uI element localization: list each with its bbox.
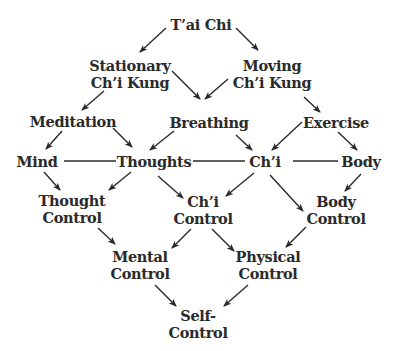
arrow-meditation-to-mind: [46, 131, 62, 149]
node-label: Ch’i Kung: [89, 74, 170, 91]
node-label: Mind: [16, 153, 57, 170]
node-thought-control: ThoughtControl: [39, 192, 106, 226]
node-label: Meditation: [30, 113, 116, 130]
node-chi-control: Ch’iControl: [173, 193, 232, 227]
node-label: Self-: [168, 307, 227, 324]
arrow-thoughts-to-thought-control: [109, 172, 131, 190]
node-body: Body: [341, 153, 380, 170]
node-label: Control: [39, 209, 106, 226]
arrow-exercise-to-chi: [272, 122, 302, 150]
arrow-chi-control-to-physical-control: [212, 229, 234, 251]
diagram-edges: [0, 0, 398, 351]
node-thoughts: Thoughts: [117, 153, 192, 170]
arrow-moving-chi-kung-to-exercise: [304, 97, 320, 112]
node-physical-control: PhysicalControl: [236, 248, 301, 282]
tai-chi-concept-diagram: T’ai ChiStationaryCh’i KungMovingCh’i Ku…: [0, 0, 398, 351]
arrow-exercise-to-body: [338, 132, 357, 150]
arrow-body-to-body-control: [345, 174, 361, 191]
arrow-tai-chi-to-stationary-chi-kung: [140, 28, 166, 52]
node-mental-control: MentalControl: [110, 248, 169, 282]
arrow-stationary-chi-kung-to-meditation: [82, 91, 104, 110]
arrow-breathing-to-chi: [236, 135, 252, 150]
arrow-meditation-to-thoughts: [113, 128, 132, 147]
node-label: T’ai Chi: [171, 16, 232, 33]
node-label: Body: [306, 193, 365, 210]
arrow-tai-chi-to-moving-chi-kung: [236, 28, 258, 50]
node-mind: Mind: [16, 153, 57, 170]
arrow-stationary-chi-kung-to-breathing: [172, 71, 200, 99]
arrow-moving-chi-kung-to-breathing: [205, 79, 228, 99]
node-label: Ch’i: [249, 153, 280, 170]
node-exercise: Exercise: [303, 114, 369, 131]
node-label: Control: [236, 265, 301, 282]
node-label: Control: [173, 210, 232, 227]
node-label: Control: [306, 210, 365, 227]
arrow-chi-to-body-control: [270, 175, 303, 211]
node-breathing: Breathing: [169, 114, 248, 131]
node-label: Stationary: [89, 57, 170, 74]
arrow-breathing-to-thoughts: [150, 131, 174, 150]
node-label: Ch’i Kung: [233, 74, 312, 91]
arrow-thought-control-to-mental-control: [98, 228, 115, 244]
node-label: Thought: [39, 192, 106, 209]
node-label: Exercise: [303, 114, 369, 131]
node-label: Body: [341, 153, 380, 170]
node-moving-chi-kung: MovingCh’i Kung: [233, 57, 312, 91]
node-label: Ch’i: [173, 193, 232, 210]
node-self-control: Self-Control: [168, 307, 227, 341]
node-body-control: BodyControl: [306, 193, 365, 227]
arrow-body-control-to-physical-control: [286, 227, 306, 247]
node-label: Breathing: [169, 114, 248, 131]
node-label: Thoughts: [117, 153, 192, 170]
arrow-chi-control-to-mental-control: [172, 229, 191, 248]
node-meditation: Meditation: [30, 113, 116, 130]
node-label: Control: [110, 265, 169, 282]
node-stationary-chi-kung: StationaryCh’i Kung: [89, 57, 170, 91]
arrow-mind-to-thought-control: [44, 172, 60, 190]
node-chi: Ch’i: [249, 153, 280, 170]
node-label: Control: [168, 324, 227, 341]
node-label: Moving: [233, 57, 312, 74]
node-tai-chi: T’ai Chi: [171, 16, 232, 33]
node-label: Mental: [110, 248, 169, 265]
arrow-physical-control-to-self-control: [224, 285, 248, 306]
arrow-mental-control-to-self-control: [155, 285, 176, 306]
node-label: Physical: [236, 248, 301, 265]
